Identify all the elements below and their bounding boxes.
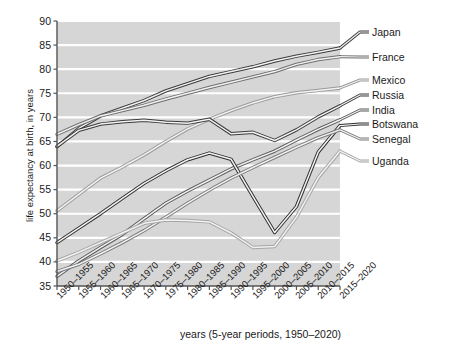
y-tick-label: 35 <box>26 281 51 292</box>
y-tick-label: 50 <box>26 208 51 219</box>
y-tick-label: 80 <box>26 64 51 75</box>
legend-leader-lines <box>340 32 369 161</box>
legend-label-russia: Russia <box>372 89 404 101</box>
y-tick-label: 45 <box>26 232 51 243</box>
legend-label-senegal: Senegal <box>372 133 411 145</box>
x-axis-title: years (5-year periods, 1950–2020) <box>180 328 341 340</box>
legend-label-uganda: Uganda <box>372 155 409 167</box>
y-tick-label: 55 <box>26 184 51 195</box>
legend-label-botswana: Botswana <box>372 118 418 130</box>
y-tick-label: 40 <box>26 256 51 267</box>
leader-outline-russia <box>340 95 369 106</box>
life-expectancy-line-chart: life expectancy at birth, in years years… <box>0 0 462 357</box>
y-tick-label: 75 <box>26 88 51 99</box>
y-tick-label: 70 <box>26 112 51 123</box>
y-tick-label: 85 <box>26 40 51 51</box>
legend-label-france: France <box>372 51 405 63</box>
y-tick-label: 90 <box>26 16 51 27</box>
legend-label-japan: Japan <box>372 26 401 38</box>
leader-outline-japan <box>340 32 369 48</box>
legend-label-mexico: Mexico <box>372 74 405 86</box>
legend-label-india: India <box>372 104 395 116</box>
y-tick-label: 60 <box>26 160 51 171</box>
y-tick-label: 65 <box>26 136 51 147</box>
